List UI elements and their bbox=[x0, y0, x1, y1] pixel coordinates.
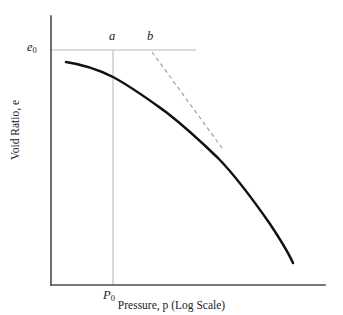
y-axis-title-rotator: Void Ratio, e bbox=[10, 70, 28, 190]
y-axis-tick-label-e0: e0 bbox=[27, 41, 37, 55]
y-axis-title: Void Ratio, e bbox=[10, 70, 22, 190]
plot-canvas bbox=[0, 0, 343, 315]
x-axis-title: Pressure, p (Log Scale) bbox=[0, 300, 343, 312]
void-ratio-curve bbox=[66, 62, 293, 263]
annotation-label-b: b bbox=[147, 30, 153, 43]
consolidation-curve-figure: e0 a b P0 Pressure, p (Log Scale) Void R… bbox=[0, 0, 343, 315]
e0-subscript: 0 bbox=[33, 45, 37, 55]
annotation-label-a: a bbox=[109, 30, 115, 43]
tangent-dashed-line bbox=[152, 52, 222, 148]
